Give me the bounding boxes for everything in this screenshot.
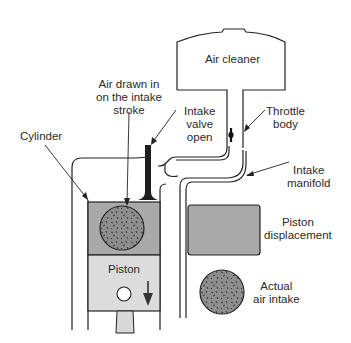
label-legend-actual: Actual air intake — [253, 280, 300, 306]
label-intake-valve: Intake valve open — [184, 105, 215, 144]
throttle-plate-icon — [228, 128, 233, 142]
intake-valve — [138, 145, 158, 200]
label-throttle-body-line2: body — [266, 118, 305, 131]
legend-displacement-swatch — [188, 205, 260, 255]
label-air-drawn: Air drawn in on the intake stroke — [96, 78, 162, 117]
air-intake-circle — [100, 206, 144, 250]
label-legend-displacement: Piston displacement — [264, 216, 332, 242]
label-air-cleaner: Air cleaner — [205, 53, 260, 66]
leader-lines — [45, 110, 289, 204]
label-legend-displacement-line1: Piston — [264, 216, 332, 229]
label-intake-valve-line1: Intake — [184, 105, 215, 118]
label-legend-displacement-line2: displacement — [264, 229, 332, 242]
label-air-drawn-line1: Air drawn in — [96, 78, 162, 91]
label-cylinder: Cylinder — [20, 130, 62, 143]
label-intake-manifold: Intake manifold — [287, 164, 330, 190]
label-legend-actual-line2: air intake — [253, 293, 300, 306]
label-intake-valve-line2: valve — [184, 118, 215, 131]
arrowheads — [82, 124, 254, 206]
legend-actual-swatch — [200, 270, 244, 314]
label-intake-manifold-line2: manifold — [287, 177, 330, 190]
label-throttle-body: Throttle body — [266, 105, 305, 131]
connecting-rod — [116, 311, 134, 333]
label-intake-valve-line3: open — [184, 131, 215, 144]
label-piston: Piston — [108, 263, 140, 276]
circle-icon — [117, 287, 131, 301]
label-air-drawn-line3: stroke — [96, 104, 162, 117]
label-intake-manifold-line1: Intake — [287, 164, 330, 177]
label-legend-actual-line1: Actual — [253, 280, 300, 293]
label-air-drawn-line2: on the intake — [96, 91, 162, 104]
label-throttle-body-line1: Throttle — [266, 105, 305, 118]
